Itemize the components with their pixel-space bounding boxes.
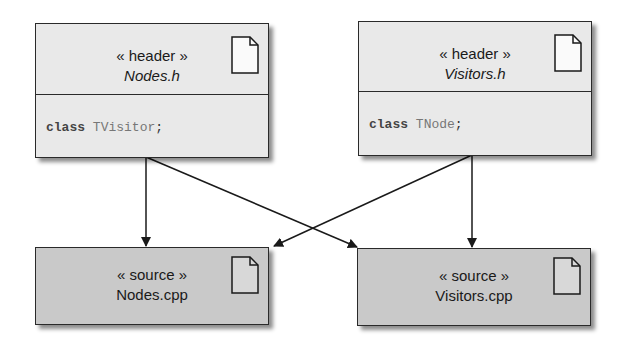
nodes-h-box: « header » Nodes.h class TVisitor; bbox=[35, 23, 269, 158]
document-icon bbox=[554, 34, 582, 72]
code-line: class TVisitor; bbox=[46, 120, 163, 135]
nodes-cpp-box: « source » Nodes.cpp bbox=[35, 247, 269, 325]
code-end: ; bbox=[155, 120, 163, 135]
code-type: TNode bbox=[416, 117, 455, 132]
document-icon bbox=[231, 256, 259, 294]
document-icon bbox=[231, 36, 259, 74]
visitors-cpp-box: « source » Visitors.cpp bbox=[357, 248, 591, 326]
compartment-divider bbox=[36, 94, 268, 95]
compartment-divider bbox=[359, 91, 591, 92]
arrow-visitors-h-to-nodes-cpp bbox=[274, 155, 472, 246]
document-icon bbox=[553, 257, 581, 295]
code-end: ; bbox=[455, 117, 463, 132]
visitors-h-box: « header » Visitors.h class TNode; bbox=[358, 21, 592, 156]
arrow-nodes-h-to-visitors-cpp bbox=[146, 157, 357, 247]
code-keyword: class bbox=[369, 117, 408, 132]
code-type: TVisitor bbox=[93, 120, 155, 135]
code-keyword: class bbox=[46, 120, 85, 135]
code-line: class TNode; bbox=[369, 117, 463, 132]
